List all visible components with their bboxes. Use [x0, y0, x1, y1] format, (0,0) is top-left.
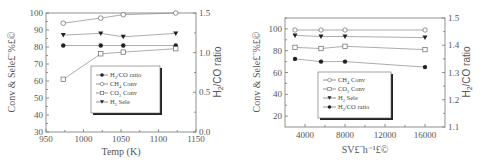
- right-x-axis-title: SV£¨h⁻¹£©: [342, 144, 389, 155]
- xtick: 8000: [336, 130, 355, 140]
- ytick: 40: [34, 110, 44, 120]
- left-y-tick-labels: 30 40 50 60 70 80 90 100: [30, 8, 44, 137]
- xtick: 4000: [296, 130, 315, 140]
- left-x-ticks: [46, 129, 196, 132]
- right-y2-axis-title: H2/CO ratio: [461, 46, 473, 98]
- ytick: 100: [269, 24, 283, 34]
- y2tick: 1.0: [199, 48, 211, 58]
- figure: 30 40 50 60 70 80 90 100 0.0 0.5 1.0 1.5: [0, 0, 490, 163]
- xtick: 1100: [150, 134, 168, 144]
- series-h2-co-ratio: [61, 43, 178, 47]
- y2tick: 0.5: [199, 87, 211, 97]
- right-y2-tick-labels: 1.1 1.2 1.3 1.4 1.5: [448, 13, 460, 132]
- left-x-axis-title: Temp (K): [101, 146, 140, 158]
- ytick: 100: [30, 8, 44, 18]
- y2tick: 1.5: [199, 8, 211, 18]
- series-co2-conv: [293, 44, 427, 52]
- left-y2-tick-labels: 0.0 0.5 1.0 1.5: [199, 8, 211, 137]
- left-chart: 30 40 50 60 70 80 90 100 0.0 0.5 1.0 1.5: [6, 8, 224, 158]
- y2tick: 1.3: [448, 68, 460, 78]
- xtick: 1150: [187, 134, 205, 144]
- right-y-ticks: [285, 18, 288, 116]
- series-ch4-conv: [293, 28, 427, 32]
- ytick: 20: [273, 111, 283, 121]
- ytick: 40: [273, 89, 283, 99]
- left-y2-axis-title: H2/CO ratio: [212, 46, 224, 98]
- right-x-tick-labels: 4000 8000 12000 16000: [296, 130, 437, 140]
- ytick: 80: [273, 46, 283, 56]
- left-y-axis-title: Conv & Sele£¨%£©: [6, 31, 17, 112]
- y2tick: 1.2: [448, 95, 459, 105]
- y2tick: 1.5: [448, 13, 460, 23]
- series-h2-co-ratio: [293, 57, 427, 70]
- xtick: 950: [39, 134, 53, 144]
- ytick: 50: [34, 93, 44, 103]
- xtick: 12000: [374, 130, 397, 140]
- ytick: 70: [34, 59, 44, 69]
- ytick: 90: [34, 25, 44, 35]
- right-y-tick-labels: 20 40 60 80 100: [269, 24, 283, 121]
- left-y-ticks: [46, 13, 49, 132]
- right-x-ticks: [305, 124, 425, 127]
- series-h2-sele: [293, 33, 428, 40]
- series-h2-sele: [61, 31, 179, 39]
- xtick: 1000: [75, 134, 94, 144]
- xtick: 16000: [414, 130, 437, 140]
- ytick: 80: [34, 42, 44, 52]
- y2tick: 1.4: [448, 40, 460, 50]
- y2tick: 1.1: [448, 122, 459, 132]
- left-x-tick-labels: 950 1000 1050 1100 1150: [39, 134, 205, 144]
- left-legend: H2/CO ratio CH4 Conv CO2 Conv H2 Sele: [91, 66, 162, 115]
- right-y2-ticks: [442, 18, 445, 127]
- left-y2-ticks: [193, 13, 196, 132]
- right-legend: CH4 Conv CO2 Conv H2 Sele H2/CO ratio: [318, 72, 393, 120]
- ytick: 60: [273, 68, 283, 78]
- right-chart: 20 40 60 80 100 1.1 1.2 1.3 1.4 1.5: [251, 13, 473, 155]
- ytick: 60: [34, 76, 44, 86]
- right-y-axis-title: Conv & Sele£¨%£©: [251, 31, 262, 112]
- xtick: 1050: [112, 134, 131, 144]
